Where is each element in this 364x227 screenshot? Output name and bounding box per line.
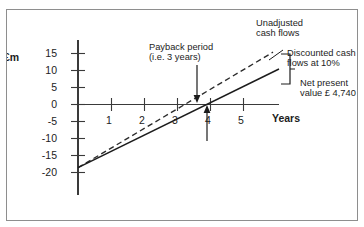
series-discounted-cash-flows (78, 69, 279, 168)
chart-figure: £m 15 10 5 0 -5 -10 -15 -20 1 2 3 4 5 Ye… (0, 0, 364, 227)
clipped-caption-strip (0, 0, 364, 7)
chart-plot-area (7, 10, 357, 220)
npv-breakeven-arrow-up (204, 105, 211, 141)
discounted-label-leader (269, 50, 283, 60)
payback-arrow-down (194, 65, 201, 103)
chart-frame: £m 15 10 5 0 -5 -10 -15 -20 1 2 3 4 5 Ye… (6, 9, 358, 221)
npv-bracket (281, 54, 295, 84)
